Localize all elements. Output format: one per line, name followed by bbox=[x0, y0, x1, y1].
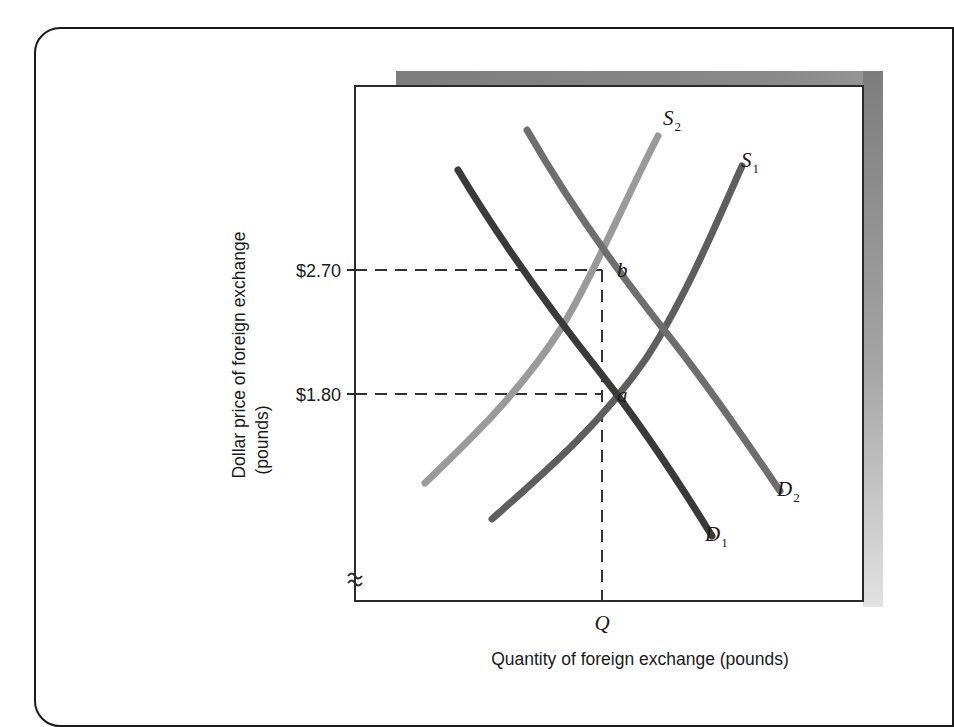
y-tick-label-270: $2.70 bbox=[296, 261, 341, 281]
point-label-b: b bbox=[617, 258, 628, 282]
y-tick-label-180: $1.80 bbox=[296, 385, 341, 405]
point-label-a: a bbox=[617, 383, 628, 407]
plot-shadow-top bbox=[396, 71, 883, 87]
y-axis-title-line2: (pounds) bbox=[252, 405, 272, 474]
x-axis-title: Quantity of foreign exchange (pounds) bbox=[491, 649, 789, 669]
x-tick-label-q: Q bbox=[594, 611, 609, 635]
y-axis-title-line1: Dollar price of foreign exchange bbox=[229, 231, 249, 478]
plot-shadow-right bbox=[863, 71, 883, 607]
plot-area bbox=[355, 86, 863, 601]
